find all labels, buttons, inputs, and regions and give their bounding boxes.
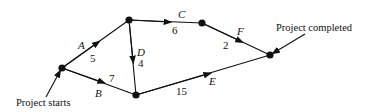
label-activity-a: A xyxy=(78,40,85,51)
network-diagram xyxy=(0,0,375,112)
node-end xyxy=(266,51,273,58)
label-activity-c: C xyxy=(178,9,185,20)
label-activity-f: F xyxy=(237,26,244,37)
label-activity-b: B xyxy=(95,88,102,99)
node-3 xyxy=(132,91,139,98)
node-start xyxy=(58,64,65,71)
label-activity-e: E xyxy=(209,76,216,87)
project-completed-label: Project completed xyxy=(276,23,352,34)
node-2 xyxy=(125,16,132,23)
label-duration-b: 7 xyxy=(109,73,115,84)
label-duration-f: 2 xyxy=(223,40,229,51)
end-pointer xyxy=(275,34,305,52)
start-pointer xyxy=(46,73,59,97)
label-duration-a: 5 xyxy=(90,53,96,64)
node-4 xyxy=(198,19,205,26)
label-duration-c: 6 xyxy=(172,25,178,36)
project-starts-label: Project starts xyxy=(16,98,71,109)
label-duration-e: 15 xyxy=(176,86,187,97)
label-duration-d: 4 xyxy=(138,58,144,69)
